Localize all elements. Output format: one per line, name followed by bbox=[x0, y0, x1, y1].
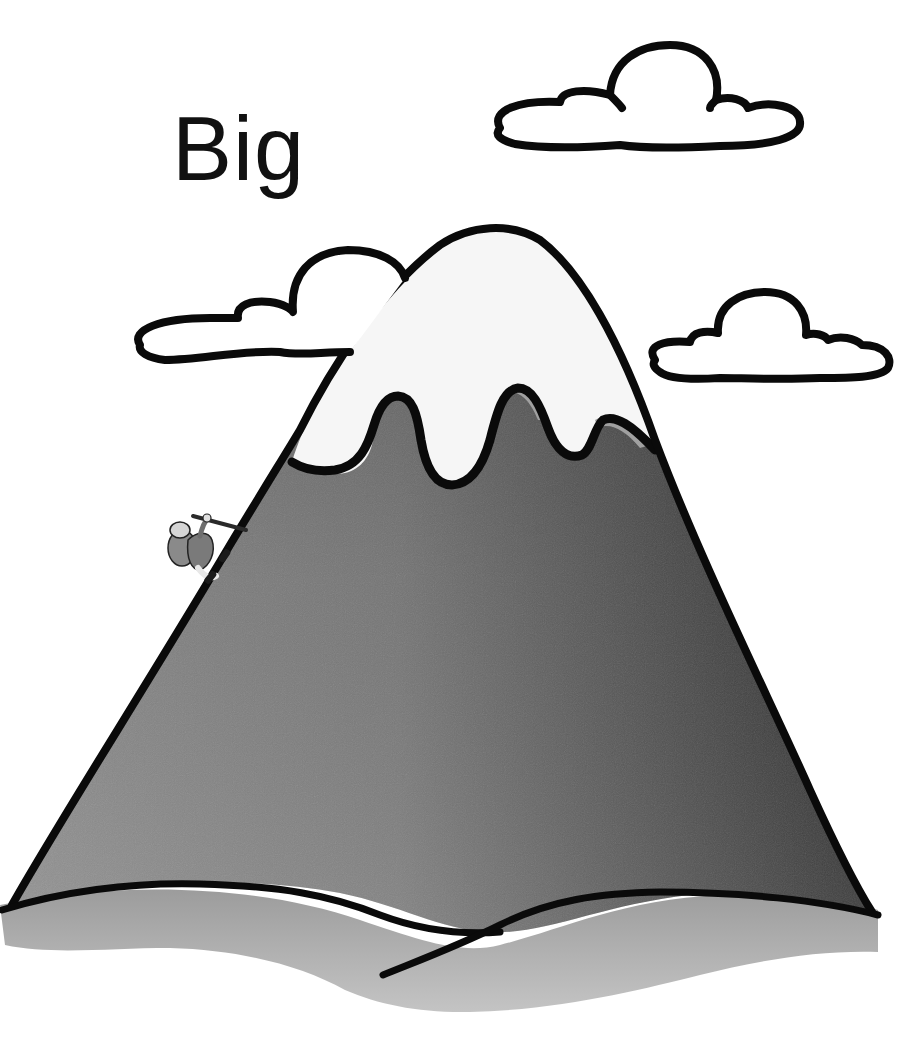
title-text: Big bbox=[172, 104, 305, 194]
mountain-scene bbox=[0, 0, 899, 1056]
cloud-top-right bbox=[498, 45, 800, 147]
illustration: Big bbox=[0, 0, 899, 1056]
cloud-right bbox=[652, 292, 889, 379]
